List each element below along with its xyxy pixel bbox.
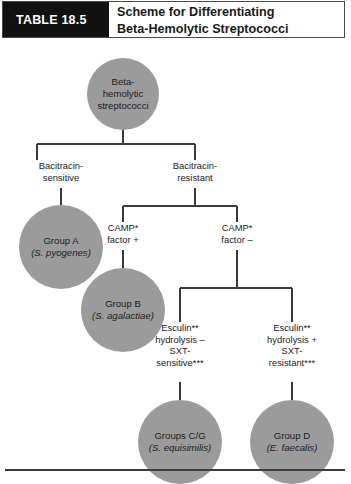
node-group-a-name: Group A (43, 235, 78, 246)
edge-label-camp-negative: CAMP* factor – (195, 222, 279, 245)
node-beta-hemolytic-streptococci[interactable]: Beta- hemolytic streptococci (87, 58, 159, 130)
node-label-line-1: Beta- (112, 76, 135, 87)
node-group-b-species: (S. agalactiae) (92, 310, 154, 322)
node-group-b-name: Group B (105, 298, 141, 309)
node-groups-cg[interactable]: Groups C/G (S. equisimilis) (138, 400, 222, 484)
edge-label-esculin-positive-sxt-resistant: Esculin** hydrolysis + SXT- resistant*** (247, 322, 337, 368)
node-group-d-species: (E. faecalis) (267, 442, 318, 454)
table-bottom-rule (5, 469, 345, 471)
edge-label-bacitracin-resistant: Bacitracin- resistant (145, 160, 245, 183)
edge-label-esculin-negative-sxt-sensitive: Esculin** hydrolysis – SXT- sensitive*** (135, 322, 225, 368)
node-group-a[interactable]: Group A (S. pyogenes) (19, 205, 103, 289)
node-beta-hemolytic-streptococci-label: Beta- hemolytic streptococci (94, 76, 151, 113)
node-label-line-2: hemolytic (103, 88, 144, 99)
edge-label-camp-positive: CAMP* factor + (81, 222, 165, 245)
node-group-d-name: Group D (274, 430, 310, 441)
node-group-b-label: Group B (S. agalactiae) (89, 298, 157, 322)
node-groups-cg-species: (S. equisimilis) (149, 442, 211, 454)
node-group-a-species: (S. pyogenes) (31, 247, 91, 259)
node-group-d[interactable]: Group D (E. faecalis) (250, 400, 334, 484)
node-group-d-label: Group D (E. faecalis) (264, 430, 321, 454)
node-label-line-3: streptococci (97, 100, 148, 111)
node-groups-cg-name: Groups C/G (154, 430, 205, 441)
node-groups-cg-label: Groups C/G (S. equisimilis) (146, 430, 214, 454)
edge-label-bacitracin-sensitive: Bacitracin- sensitive (11, 160, 111, 183)
